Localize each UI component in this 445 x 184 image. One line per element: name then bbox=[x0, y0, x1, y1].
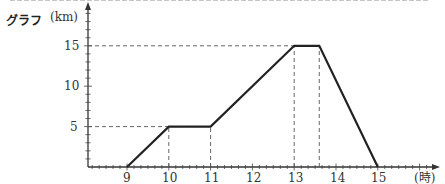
x-tick-15: 15 bbox=[371, 171, 386, 184]
y-unit-label: (km) bbox=[50, 10, 78, 24]
axes bbox=[84, 2, 440, 171]
x-tick-10: 10 bbox=[162, 171, 177, 184]
x-tick-12: 12 bbox=[246, 171, 261, 184]
y-tick-10: 10 bbox=[64, 79, 79, 93]
y-tick-15: 15 bbox=[64, 39, 79, 53]
guide-lines bbox=[88, 46, 319, 167]
x-unit-label: (時) bbox=[414, 171, 435, 184]
x-tick-9: 9 bbox=[123, 171, 131, 184]
x-axis-arrow-icon bbox=[432, 164, 440, 170]
distance-time-chart: (km) 15 10 5 9 10 11 12 13 14 15 (時) bbox=[0, 0, 445, 184]
x-tick-11: 11 bbox=[204, 171, 219, 184]
x-tick-14: 14 bbox=[330, 171, 346, 184]
y-tick-5: 5 bbox=[70, 120, 78, 134]
distance-line bbox=[127, 46, 378, 167]
y-axis-arrow-icon bbox=[85, 2, 91, 10]
data-series bbox=[127, 46, 378, 167]
x-tick-13: 13 bbox=[288, 171, 303, 184]
